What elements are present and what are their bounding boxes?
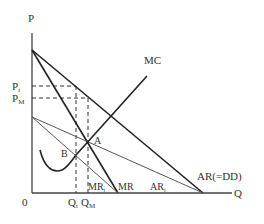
qt-label: Qt [68, 196, 78, 210]
point-b-label: B [61, 148, 68, 159]
mc-label: MC [144, 54, 161, 66]
x-axis-label: Q [234, 187, 242, 199]
art-label: ARt [150, 181, 166, 193]
monopoly-diagram: P Q 0 Pt PM Qt QM MC MRt MR ARt AR(=DD) … [0, 0, 264, 224]
origin-label: 0 [22, 196, 28, 208]
mrt-label: MRt [88, 181, 106, 193]
qm-label: QM [81, 196, 96, 210]
pm-label: PM [12, 92, 25, 106]
y-axis-label: P [28, 12, 34, 24]
ar-dd-label: AR(=DD) [197, 170, 242, 183]
point-a-label: A [94, 135, 102, 146]
mr-label: MR [118, 181, 134, 192]
